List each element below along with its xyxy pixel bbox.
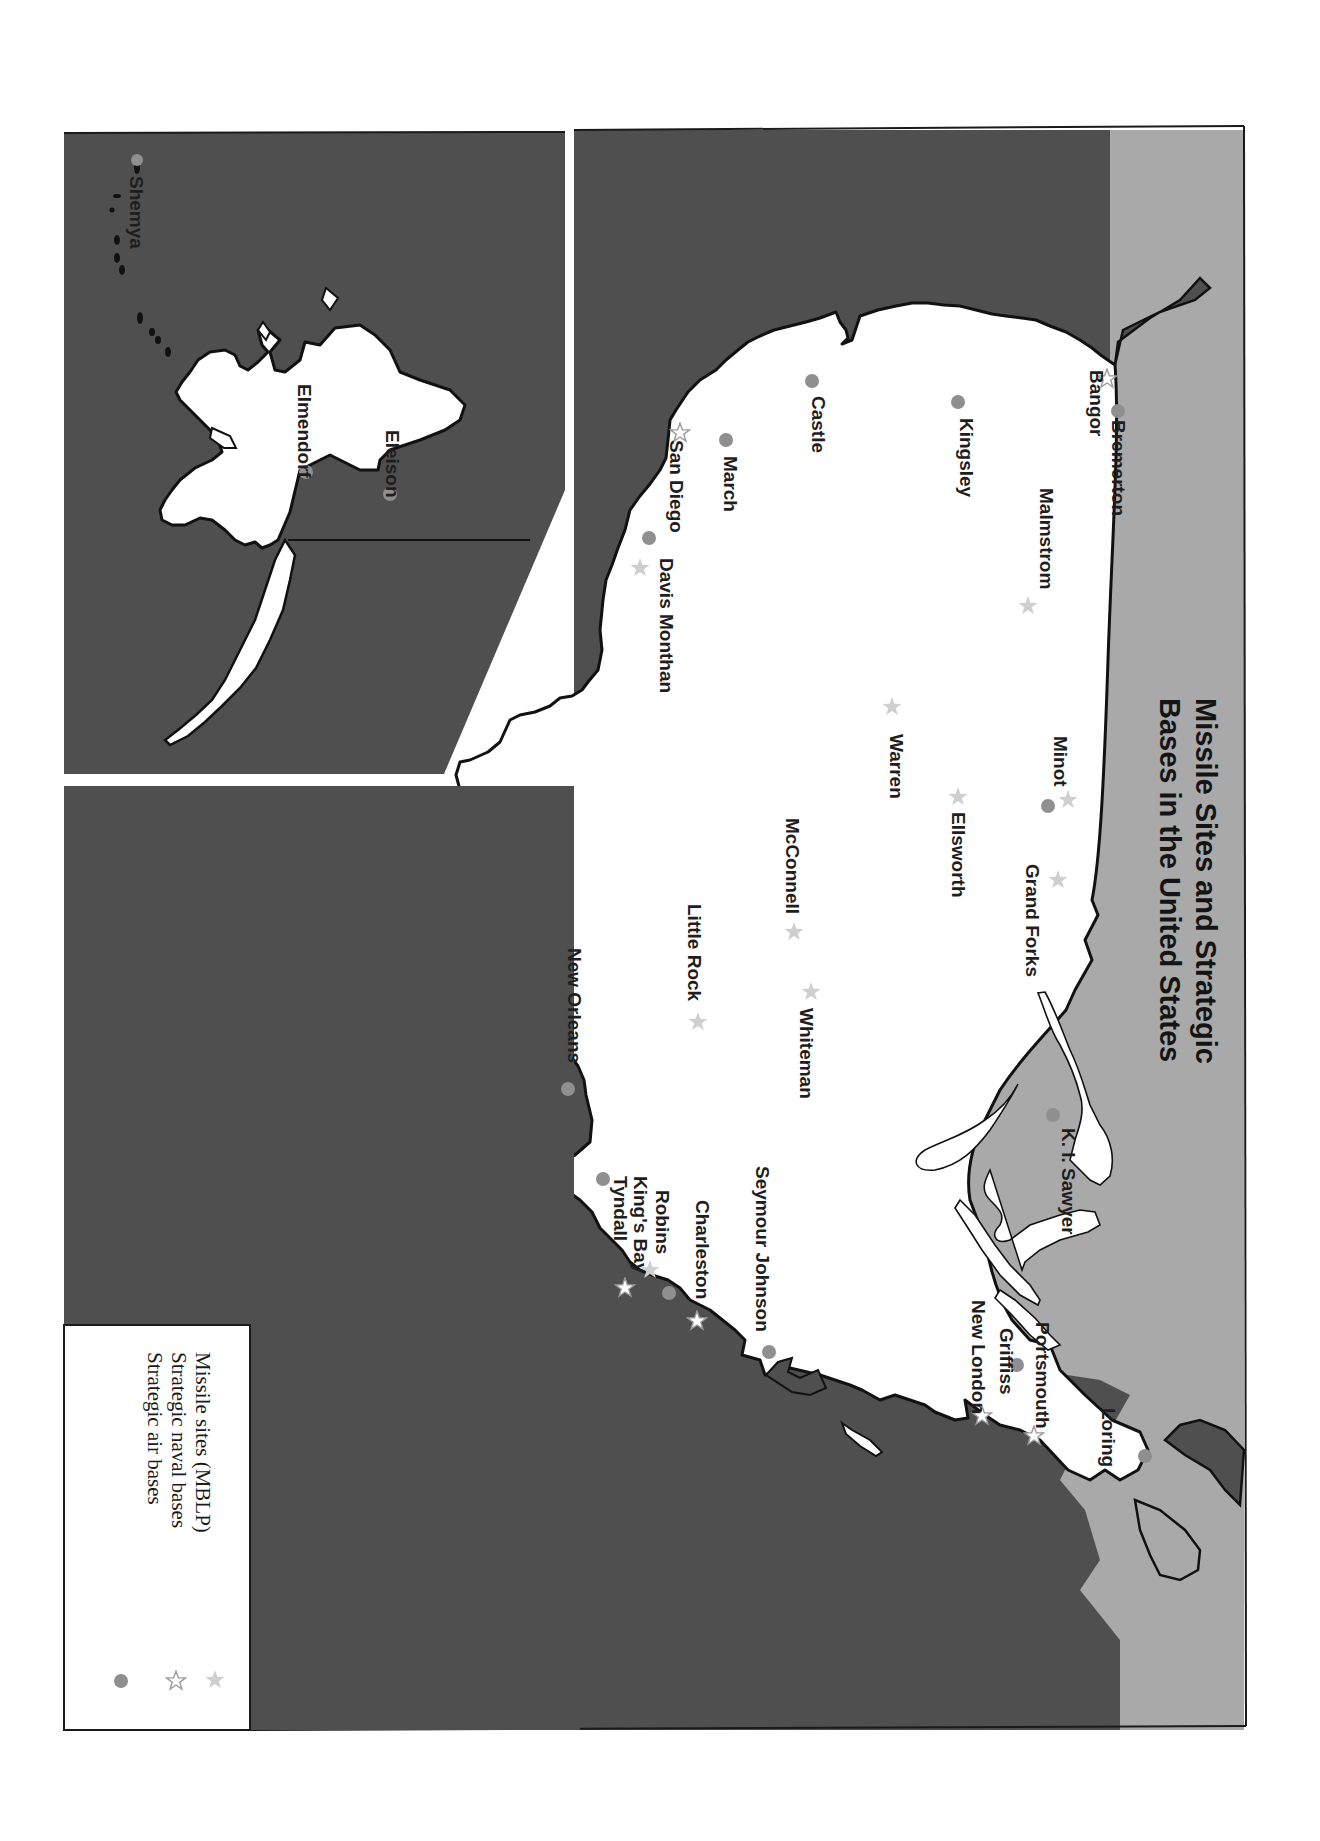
air-base-marker-tyndall <box>596 1172 610 1186</box>
label-grand-forks: Grand Forks <box>1022 864 1043 977</box>
alaska-inset: Shemya Elmendorf Eleison <box>62 130 570 778</box>
label-shemya: Shemya <box>126 176 147 249</box>
label-elmendorf: Elmendorf <box>294 384 315 479</box>
legend: Missile sites (MBLP) Strategic naval bas… <box>64 1325 250 1730</box>
label-warren: Warren <box>886 734 907 799</box>
label-k-i-sawyer: K. I. Sawyer <box>1058 1128 1079 1235</box>
label-new-orleans: New Orleans <box>564 948 585 1063</box>
label-charleston: Charleston <box>692 1200 713 1299</box>
label-bremerton: Bremerton <box>1108 420 1129 516</box>
label-ellsworth: Ellsworth <box>948 812 969 898</box>
ocean-right-of-legend <box>250 1325 580 1730</box>
title-line-2: Bases in the United States <box>1154 698 1186 1062</box>
legend-label-naval-bases: Strategic naval bases <box>167 1352 191 1528</box>
air-base-marker-k-i-sawyer <box>1046 1108 1060 1122</box>
legend-air-base-icon <box>114 1674 128 1688</box>
label-bangor: Bangor <box>1086 370 1107 437</box>
label-kings-bay: King's Bay <box>630 1176 651 1274</box>
label-seymour-johnson: Seymour Johnson <box>752 1166 773 1332</box>
air-base-marker-new-orleans <box>561 1082 575 1096</box>
air-base-marker-bremerton <box>1111 404 1125 418</box>
legend-label-air-bases: Strategic air bases <box>143 1352 167 1505</box>
label-eleison: Eleison <box>382 430 403 498</box>
label-robins: Robins <box>652 1190 673 1254</box>
label-loring: Loring <box>1098 1408 1119 1467</box>
inset-top-border <box>64 132 565 133</box>
air-base-marker-kingsley <box>951 395 965 409</box>
air-base-marker-castle <box>805 374 819 388</box>
air-base-marker-loring <box>1138 1449 1152 1463</box>
label-mcconnell: McConnell <box>782 818 803 914</box>
title-line-1: Missile Sites and Strategic <box>1190 698 1222 1064</box>
label-malmstrom: Malmstrom <box>1036 488 1057 589</box>
air-base-marker-davis-monthan <box>642 531 656 545</box>
label-san-diego: San Diego <box>666 440 687 533</box>
label-new-london: New London <box>968 1300 989 1414</box>
label-castle: Castle <box>808 396 829 453</box>
label-tyndall: Tyndall <box>610 1176 631 1241</box>
label-march: March <box>720 456 741 512</box>
air-base-marker-seymour-johnson <box>762 1345 776 1359</box>
air-base-marker-march <box>719 433 733 447</box>
missile-bases-map: Shemya Elmendorf Eleison <box>0 0 1320 1841</box>
legend-label-missile-sites: Missile sites (MBLP) <box>191 1352 215 1533</box>
label-minot: Minot <box>1050 736 1071 787</box>
label-whiteman: Whiteman <box>796 1008 817 1099</box>
air-base-marker-charleston <box>662 1286 676 1300</box>
main-panel-right-border <box>1244 126 1246 1726</box>
main-panel-top-border <box>574 126 1244 130</box>
air-base-marker-minot <box>1041 799 1055 813</box>
label-little-rock: Little Rock <box>684 904 705 1002</box>
label-davis-monthan: Davis Monthan <box>656 558 677 693</box>
label-portsmouth: Portsmouth <box>1032 1322 1053 1429</box>
label-kingsley: Kingsley <box>956 418 977 498</box>
label-griffiss: Griffiss <box>996 1328 1017 1395</box>
air-base-marker-shemya <box>131 154 143 166</box>
